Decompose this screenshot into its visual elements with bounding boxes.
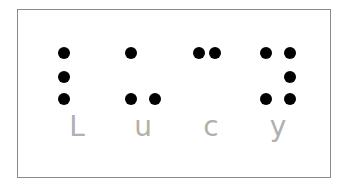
braille-dot-u-1 (125, 47, 137, 59)
braille-dot-y-1 (260, 47, 272, 59)
braille-dot-y-6 (284, 93, 296, 105)
letter-label-y: y (270, 113, 287, 141)
braille-dot-u-3 (125, 93, 137, 105)
braille-dot-l-2 (58, 71, 70, 83)
braille-dot-y-5 (284, 71, 296, 83)
braille-dot-y-4 (284, 47, 296, 59)
letter-label-u: u (134, 113, 152, 141)
letter-label-c: c (203, 113, 218, 141)
letter-label-l: L (69, 113, 85, 141)
braille-dot-u-6 (149, 93, 161, 105)
braille-dot-l-1 (58, 47, 70, 59)
braille-dot-l-3 (58, 93, 70, 105)
braille-dot-c-1 (193, 47, 205, 59)
braille-dot-c-4 (209, 47, 221, 59)
braille-dot-y-3 (260, 93, 272, 105)
